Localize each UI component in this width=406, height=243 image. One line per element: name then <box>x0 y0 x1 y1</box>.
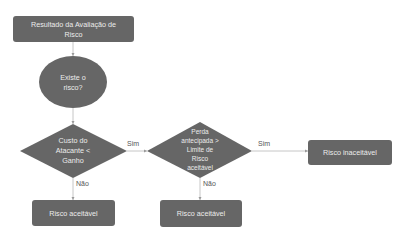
node-loss: Perda antecipada > Limite de Risco aceit… <box>147 122 252 178</box>
arrowhead-icon <box>72 53 75 56</box>
node-start-line: Risco <box>65 30 83 39</box>
node-accept1: Risco aceitável <box>32 200 115 226</box>
node-loss-line: Limite de <box>187 146 214 153</box>
node-start-line: Resultado da Avaliação de <box>31 20 116 29</box>
node-exists-line: risco? <box>63 83 82 92</box>
node-accept1-line: Risco aceitável <box>49 209 98 218</box>
node-cost-line: Atacante < <box>56 146 91 155</box>
node-reject: Risco inaceitável <box>308 140 392 165</box>
node-exists-shape <box>39 56 107 108</box>
node-start: Resultado da Avaliação de Risco <box>13 16 134 42</box>
node-cost-line: Custo do <box>59 136 88 145</box>
edge-label-nao: Não <box>203 180 216 187</box>
node-accept2: Risco aceitável <box>160 200 242 227</box>
node-cost-line: Ganho <box>62 156 84 165</box>
node-loss-line: antecipada > <box>181 137 219 145</box>
node-reject-line: Risco inaceitável <box>323 148 377 157</box>
arrowhead-icon <box>72 197 75 200</box>
flowchart-diagram: Sim Não Sim Não Resultado da Avaliação d… <box>0 0 406 243</box>
arrowhead-icon <box>72 121 75 124</box>
node-loss-line: aceitável <box>187 164 213 171</box>
node-loss-line: Risco <box>192 155 209 162</box>
edge-label-sim: Sim <box>258 140 270 147</box>
edge-label-sim: Sim <box>127 140 139 147</box>
arrowhead-icon <box>199 197 202 200</box>
arrowhead-icon <box>305 150 308 153</box>
node-loss-line: Perda <box>191 128 209 135</box>
node-exists-line: Existe o <box>60 73 86 82</box>
arrowhead-icon <box>144 150 147 153</box>
edges <box>72 42 309 200</box>
node-exists: Existe o risco? <box>39 56 107 108</box>
edge-label-nao: Não <box>76 180 89 187</box>
node-accept2-line: Risco aceitável <box>177 209 226 218</box>
node-cost: Custo do Atacante < Ganho <box>20 124 127 178</box>
